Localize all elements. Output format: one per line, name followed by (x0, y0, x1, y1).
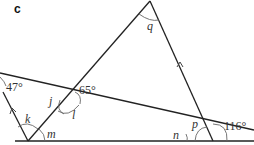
diagram-lines (0, 1, 254, 141)
left-triangle-side (28, 1, 150, 141)
label-k: k (25, 112, 31, 126)
label-p: p (191, 117, 198, 131)
label-l: l (72, 108, 76, 122)
label-j: j (47, 94, 53, 108)
label-m: m (47, 127, 56, 141)
right-triangle-side (150, 1, 213, 141)
label-n: n (173, 128, 179, 142)
label-65: 65° (79, 83, 96, 97)
parallel-arrows (10, 62, 183, 114)
arc-n (186, 134, 187, 141)
label-q: q (147, 19, 153, 33)
label-47: 47° (6, 80, 23, 94)
angle-diagram: q 47° 65° j l k m n p 116° (0, 0, 254, 145)
label-116: 116° (224, 119, 247, 133)
geometry-figure: c (0, 0, 254, 145)
arc-m (39, 129, 45, 141)
transversal-line (0, 73, 254, 130)
part-label: c (14, 2, 21, 16)
